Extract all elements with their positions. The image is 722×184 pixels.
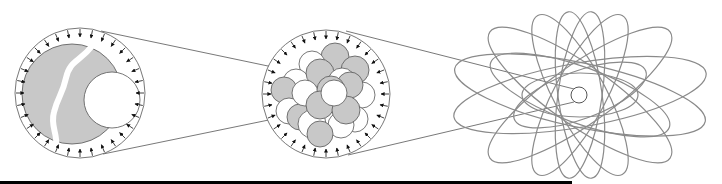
- nucleus: [571, 87, 587, 103]
- zoom-diagram: [0, 0, 722, 184]
- neutron-particle: [321, 80, 347, 106]
- white-body: [84, 72, 140, 128]
- electron-orbits-panel: [448, 3, 712, 184]
- nucleus-panel: [262, 30, 390, 158]
- cell-body-panel: [15, 28, 145, 158]
- proton-particle: [307, 121, 333, 147]
- bottom-divider-bar: [0, 181, 572, 184]
- diagram-canvas: [0, 0, 722, 184]
